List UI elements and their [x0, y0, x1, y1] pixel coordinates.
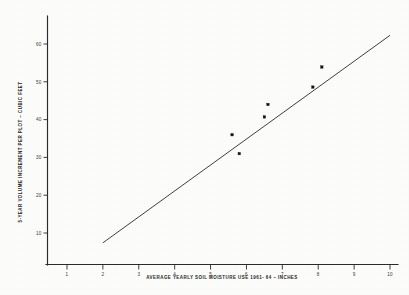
x-tick-label: 10 — [387, 272, 393, 277]
x-axis-title: AVERAGE YEARLY SOIL MOISTURE USE 1961- 6… — [146, 275, 298, 280]
data-point — [321, 66, 324, 69]
data-points-group — [231, 66, 323, 155]
y-tick-label: 20 — [36, 193, 42, 198]
y-tick-label: 40 — [36, 117, 42, 122]
y-axis-title: 5-YEAR VOLUME INCREMENT PER PLOT – CUBIC… — [18, 81, 23, 222]
data-point — [312, 86, 315, 89]
data-point — [231, 133, 234, 136]
plot-canvas: 102030405060 12345678910 AVERAGE YEARLY … — [0, 0, 409, 295]
x-tick-label: 9 — [353, 272, 356, 277]
x-tick-label: 8 — [317, 272, 320, 277]
y-tick-label: 10 — [36, 231, 42, 236]
data-point — [238, 152, 241, 155]
y-tick-label: 60 — [36, 42, 42, 47]
x-tick-label: 2 — [102, 272, 105, 277]
data-point — [267, 103, 270, 106]
x-tick-label: 1 — [66, 272, 69, 277]
y-tick-marks — [44, 44, 48, 233]
data-point — [263, 116, 266, 119]
figure-scatter-plot: 102030405060 12345678910 AVERAGE YEARLY … — [0, 0, 409, 295]
y-tick-label: 30 — [36, 155, 42, 160]
x-tick-label: 3 — [137, 272, 140, 277]
x-tick-marks — [67, 265, 390, 270]
trend-line-group — [103, 35, 390, 243]
y-axis-group: 102030405060 — [36, 16, 48, 265]
y-tick-label: 50 — [36, 80, 42, 85]
regression-line — [103, 35, 390, 243]
y-tick-labels: 102030405060 — [36, 42, 42, 236]
